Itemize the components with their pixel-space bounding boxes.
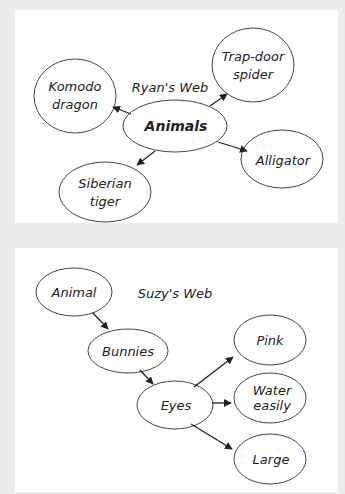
label-animal: Animal: [51, 285, 97, 300]
arrow-to-spider: [210, 94, 227, 106]
label-siberian: Siberian: [78, 176, 131, 191]
label-bunnies: Bunnies: [102, 344, 154, 359]
node-komodo-dragon: [34, 59, 116, 133]
label-alligator: Alligator: [255, 153, 312, 168]
label-easily: easily: [253, 398, 291, 413]
label-komodo: Komodo: [49, 79, 102, 94]
node-siberian-tiger: [59, 162, 151, 222]
label-tiger: tiger: [90, 194, 122, 209]
arrow-eyes-pink: [194, 357, 233, 387]
suzys-web-title: Suzy's Web: [138, 286, 213, 301]
node-trap-door-spider: [212, 28, 294, 102]
concept-webs-diagram: Ryan's Web Komodo dragon Trap-door spide…: [0, 0, 345, 494]
arrow-bunnies-eyes: [140, 370, 153, 384]
label-large: Large: [253, 452, 290, 467]
label-trap-door: Trap-door: [222, 49, 286, 64]
arrow-to-alligator: [218, 142, 247, 151]
arrow-to-komodo: [113, 107, 131, 114]
arrow-to-tiger: [137, 151, 155, 165]
label-eyes: Eyes: [161, 398, 192, 413]
label-pink: Pink: [256, 333, 284, 348]
label-animals: Animals: [144, 118, 208, 134]
arrow-animal-bunnies: [93, 313, 108, 329]
label-water: Water: [253, 383, 293, 398]
label-dragon: dragon: [52, 97, 98, 112]
arrow-eyes-large: [191, 424, 232, 449]
ryans-web-title: Ryan's Web: [132, 80, 209, 95]
label-spider: spider: [233, 67, 275, 82]
